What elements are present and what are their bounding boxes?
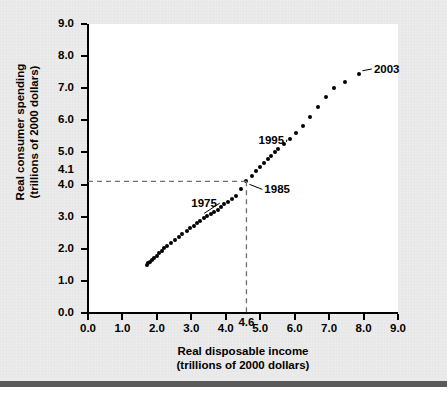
y-tick-mark: [81, 280, 87, 282]
data-point: [173, 238, 177, 242]
data-point: [324, 95, 328, 99]
y-tick-label: 3.0: [40, 211, 74, 222]
y-tick-mark: [81, 23, 87, 25]
data-point: [185, 229, 189, 233]
bottom-margin: [0, 387, 447, 395]
y-tick-label: 5.0: [40, 146, 74, 157]
x-tick-label: 9.0: [381, 323, 415, 334]
data-point: [316, 105, 320, 109]
x-tick-mark: [156, 314, 158, 320]
y-tick-label: 9.0: [40, 18, 74, 29]
y-tick-label: 7.0: [40, 82, 74, 93]
y-tick-label: 1.0: [40, 275, 74, 286]
x-tick-mark: [225, 314, 227, 320]
data-point: [234, 194, 238, 198]
x-tick-mark: [397, 314, 399, 320]
y-tick-mark: [81, 55, 87, 57]
data-point: [169, 241, 173, 245]
annotation-label-1995: 1995: [259, 134, 285, 146]
x-tick-mark: [87, 314, 89, 320]
x-axis-title-sub: (trillions of 2000 dollars): [177, 359, 310, 371]
data-point: [226, 200, 230, 204]
y-tick-label: 0.0: [40, 307, 74, 318]
data-point: [230, 197, 234, 201]
x-axis-line: [87, 312, 398, 314]
y-tick-mark: [81, 248, 87, 250]
x-axis-title-main: Real disposable income: [177, 345, 308, 357]
y-tick-mark: [81, 184, 87, 186]
annotation-label-2003: 2003: [374, 63, 400, 75]
annotation-label-1985: 1985: [264, 183, 290, 195]
x-tick-mark: [259, 314, 261, 320]
y-tick-mark: [81, 151, 87, 153]
y-special-label-4-1: 4.1: [40, 164, 74, 175]
x-tick-label: 6.0: [278, 323, 312, 334]
x-tick-mark: [294, 314, 296, 320]
y-tick-mark: [81, 119, 87, 121]
figure-scatter-plot: 0.01.02.03.04.05.06.07.08.09.00.01.02.03…: [0, 0, 447, 395]
y-tick-label: 6.0: [40, 114, 74, 125]
x-tick-label: 3.0: [174, 323, 208, 334]
x-tick-label: 7.0: [312, 323, 346, 334]
y-tick-mark: [81, 87, 87, 89]
x-tick-mark: [363, 314, 365, 320]
x-tick-mark: [121, 314, 123, 320]
plot-area: [88, 24, 398, 313]
y-tick-mark: [81, 216, 87, 218]
y-axis-line: [87, 24, 89, 314]
y-axis-title-main: Real consumer spending: [14, 64, 26, 201]
x-axis-title: Real disposable income (trillions of 200…: [88, 344, 398, 372]
y-tick-label: 2.0: [40, 243, 74, 254]
x-special-label-4-6: 4.6: [233, 317, 259, 328]
x-tick-label: 2.0: [140, 323, 174, 334]
y-axis-title: Real consumer spending (trillions of 200…: [13, 47, 41, 217]
y-tick-label: 8.0: [40, 50, 74, 61]
y-tick-label: 4.0: [40, 179, 74, 190]
data-point: [269, 154, 273, 158]
x-tick-mark: [190, 314, 192, 320]
data-point: [250, 174, 254, 178]
x-tick-label: 1.0: [105, 323, 139, 334]
annotation-label-1975: 1975: [191, 197, 217, 209]
y-axis-title-sub: (trillions of 2000 dollars): [28, 66, 40, 199]
x-tick-label: 8.0: [347, 323, 381, 334]
x-tick-mark: [328, 314, 330, 320]
x-tick-label: 0.0: [71, 323, 105, 334]
data-point: [288, 137, 292, 141]
